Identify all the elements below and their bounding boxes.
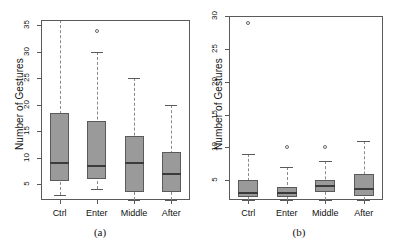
boxplot-figure: Number of Gestures 5101520253035 CtrlEnt…: [0, 0, 399, 252]
x-tick-label-ctrl: Ctrl: [41, 208, 78, 218]
panel-b-y-axis-label: Number of Gestures: [213, 58, 224, 150]
box-ctrl: [50, 113, 69, 182]
median-line-enter: [87, 165, 106, 167]
x-tick-mark: [97, 200, 98, 204]
median-line-middle: [125, 162, 144, 164]
panel-b-plot-frame: [229, 16, 383, 200]
whisker-cap-upper: [242, 154, 255, 155]
outlier-point: [95, 29, 99, 33]
x-tick-label-after: After: [345, 208, 384, 218]
panel-b-caption: (b): [199, 226, 399, 238]
box-after: [354, 174, 374, 196]
median-line-enter: [277, 192, 297, 194]
box-middle: [125, 136, 144, 192]
x-tick-label-middle: Middle: [116, 208, 153, 218]
y-tick-label: 10: [22, 150, 31, 164]
panel-b: Number of Gestures 51015202530 CtrlEnter…: [199, 0, 399, 252]
y-tick-label: 25: [210, 41, 219, 55]
panel-a-caption: (a): [0, 226, 200, 238]
median-line-after: [162, 173, 181, 175]
y-tick-label: 15: [22, 124, 31, 138]
y-tick-label: 35: [22, 18, 31, 32]
whisker-cap-upper: [357, 141, 370, 142]
outlier-point: [246, 21, 250, 25]
panel-a: Number of Gestures 5101520253035 CtrlEnt…: [0, 0, 200, 252]
x-tick-mark: [171, 200, 172, 204]
whisker-cap-lower: [54, 195, 66, 196]
y-tick-label: 30: [22, 44, 31, 58]
x-tick-mark: [364, 200, 365, 204]
y-tick-label: 30: [210, 9, 219, 23]
x-tick-mark: [134, 200, 135, 204]
whisker-cap-upper: [91, 52, 103, 53]
x-tick-label-after: After: [153, 208, 190, 218]
x-tick-label-enter: Enter: [78, 208, 115, 218]
y-tick-label: 20: [210, 74, 219, 88]
x-tick-mark: [248, 200, 249, 204]
whisker-cap-upper: [128, 78, 140, 79]
median-line-ctrl: [238, 192, 258, 194]
whisker-cap-upper: [280, 167, 293, 168]
y-tick-label: 25: [22, 71, 31, 85]
x-tick-mark: [325, 200, 326, 204]
x-tick-label-enter: Enter: [268, 208, 307, 218]
x-tick-mark: [60, 200, 61, 204]
y-tick-label: 15: [210, 107, 219, 121]
y-tick-label: 5: [22, 177, 31, 191]
median-line-middle: [315, 185, 335, 187]
y-tick-label: 20: [22, 97, 31, 111]
y-tick-label: 5: [210, 173, 219, 187]
x-tick-label-middle: Middle: [306, 208, 345, 218]
whisker-cap-upper: [54, 20, 66, 21]
whisker-cap-lower: [91, 189, 103, 190]
median-line-after: [354, 188, 374, 190]
x-tick-label-ctrl: Ctrl: [229, 208, 268, 218]
median-line-ctrl: [50, 162, 69, 164]
whisker-cap-upper: [165, 105, 177, 106]
whisker-cap-upper: [319, 161, 332, 162]
x-tick-mark: [287, 200, 288, 204]
box-enter: [87, 121, 106, 179]
y-tick-label: 10: [210, 140, 219, 154]
